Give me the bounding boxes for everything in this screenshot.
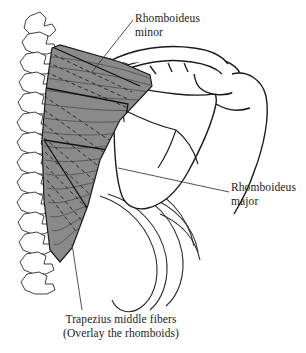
anatomy-illustration [0, 0, 306, 353]
leader-line-trapezius-caption [72, 244, 82, 310]
label-rhomboideus-minor-line1: Rhomboideus [135, 12, 200, 26]
label-rhomboideus-minor: Rhomboideus minor [135, 12, 200, 39]
label-rhomboideus-minor-line2: minor [135, 26, 200, 40]
figure-caption: Trapezius middle fibers (Overlay the rho… [63, 313, 179, 340]
figure-caption-line1: Trapezius middle fibers [63, 313, 179, 327]
label-rhomboideus-major: Rhomboideus major [231, 181, 296, 208]
anatomy-figure: Rhomboideus minor Rhomboideus major Trap… [0, 0, 306, 353]
label-rhomboideus-major-line1: Rhomboideus [231, 181, 296, 195]
label-rhomboideus-major-line2: major [231, 195, 296, 209]
figure-caption-line2: (Overlay the rhomboids) [63, 327, 179, 341]
